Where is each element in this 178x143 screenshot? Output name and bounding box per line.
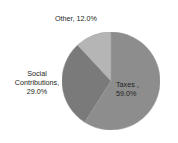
chart-title <box>0 0 178 2</box>
pie-label-social-contributions: Social Contributions, 29.0% <box>8 69 66 96</box>
pie-label-taxes: Taxes , 59.0% <box>116 80 162 98</box>
pie-label-other: Other, 12.0% <box>38 14 114 23</box>
pie-chart-figure: Other, 12.0% Social Contributions, 29.0%… <box>0 0 178 143</box>
